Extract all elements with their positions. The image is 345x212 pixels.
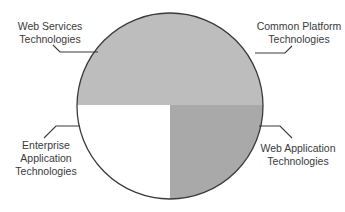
label-line: Technologies — [256, 155, 340, 168]
label-line: Technologies — [10, 165, 82, 178]
label-common-platform: Common Platform Technologies — [254, 20, 344, 46]
segment-top-half — [70, 0, 270, 105]
leader-line-web-services — [53, 45, 98, 52]
label-enterprise-application: Enterprise Application Technologies — [10, 139, 82, 178]
segment-web-application — [170, 105, 270, 212]
leader-line-web-application — [259, 126, 292, 138]
label-line: Common Platform — [254, 20, 344, 33]
label-line: Enterprise — [10, 139, 82, 152]
label-line: Web Application — [256, 142, 340, 155]
leader-line-common-platform — [255, 46, 292, 53]
label-web-services: Web Services Technologies — [14, 20, 86, 46]
segment-enterprise-application — [70, 105, 170, 212]
label-line: Technologies — [254, 33, 344, 46]
label-web-application: Web Application Technologies — [256, 142, 340, 168]
label-line: Application — [10, 152, 82, 165]
label-line: Web Services — [14, 20, 86, 33]
leader-line-enterprise-application — [44, 126, 80, 138]
label-line: Technologies — [14, 33, 86, 46]
